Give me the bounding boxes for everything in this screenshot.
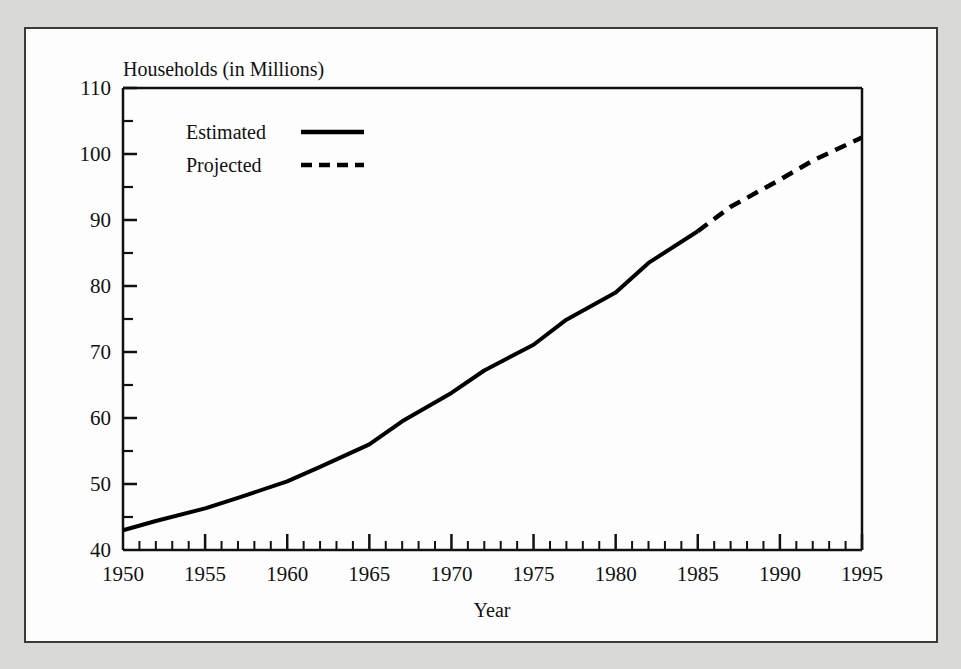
legend-label-projected: Projected (186, 154, 262, 177)
legend-label-estimated: Estimated (186, 121, 266, 143)
x-tick-label: 1970 (430, 562, 472, 586)
data-series-group (123, 138, 862, 531)
y-axis-ticks (123, 88, 137, 517)
figure-card: Households (in Millions) 405060708090100… (24, 27, 938, 643)
x-tick-label: 1995 (841, 562, 883, 586)
x-tick-label: 1985 (677, 562, 719, 586)
series-line-estimated (123, 231, 698, 530)
chart-legend: Estimated Projected (186, 121, 364, 177)
chart-area: Households (in Millions) 405060708090100… (26, 29, 936, 641)
y-tick-label: 100 (80, 142, 112, 166)
x-tick-label: 1950 (102, 562, 144, 586)
chart-title: Households (in Millions) (123, 58, 324, 81)
x-axis-title: Year (474, 599, 511, 621)
x-axis-ticks (139, 534, 862, 550)
x-tick-label: 1965 (348, 562, 390, 586)
y-tick-label: 60 (90, 406, 111, 430)
x-tick-label: 1990 (759, 562, 801, 586)
y-tick-label: 90 (90, 208, 111, 232)
x-tick-label: 1960 (266, 562, 308, 586)
y-tick-label: 50 (90, 472, 111, 496)
y-tick-label: 40 (90, 538, 111, 562)
x-tick-label: 1955 (184, 562, 226, 586)
x-tick-label: 1980 (595, 562, 637, 586)
x-tick-label: 1975 (513, 562, 555, 586)
x-axis-tick-labels: 1950195519601965197019751980198519901995 (102, 562, 883, 586)
line-chart: Households (in Millions) 405060708090100… (26, 29, 936, 641)
y-axis-tick-labels: 405060708090100110 (80, 76, 112, 562)
y-tick-label: 110 (80, 76, 111, 100)
y-tick-label: 70 (90, 340, 111, 364)
y-tick-label: 80 (90, 274, 111, 298)
series-line-projected (698, 138, 862, 232)
page-background: Households (in Millions) 405060708090100… (0, 0, 961, 669)
